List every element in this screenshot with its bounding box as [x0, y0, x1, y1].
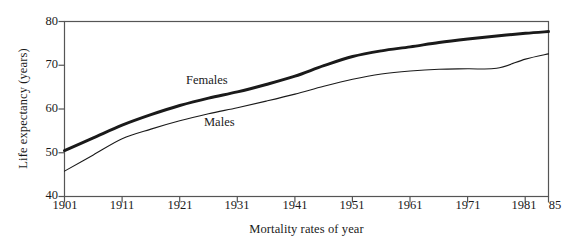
x-tick-label: 1951 — [322, 199, 382, 212]
x-tick-label: 1931 — [207, 199, 267, 212]
x-axis-title: Mortality rates of year — [64, 222, 549, 237]
x-tick-label: 85 — [525, 199, 572, 212]
series-annotation-females: Females — [186, 73, 228, 88]
x-tick-label: 1921 — [150, 199, 210, 212]
life-expectancy-chart: Life expectancy (years) 80 70 60 50 40 — [0, 0, 572, 250]
x-tick-label: 1911 — [92, 199, 152, 212]
series-annotation-males: Males — [204, 115, 235, 130]
x-axis-tick-labels: 1901 1911 1921 1931 1941 1951 1961 1971 … — [0, 0, 572, 250]
x-tick-label: 1971 — [438, 199, 498, 212]
x-tick-label: 1961 — [380, 199, 440, 212]
x-tick-label: 1941 — [265, 199, 325, 212]
x-tick-label: 1901 — [35, 199, 95, 212]
